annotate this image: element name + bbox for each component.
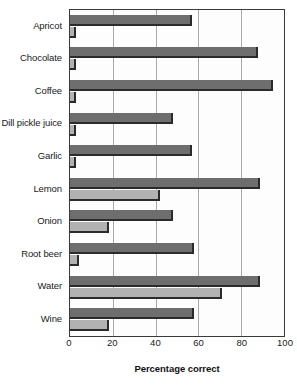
x-axis-title: Percentage correct (69, 363, 285, 374)
category-label: Chocolate (0, 42, 66, 75)
bar (70, 145, 192, 156)
bar-group (70, 140, 284, 173)
bar-group (70, 238, 284, 271)
bar (70, 320, 109, 331)
bar (70, 276, 260, 287)
bar-group (70, 108, 284, 141)
category-label: Wine (0, 302, 66, 335)
bar-group (70, 10, 284, 43)
value-axis: 020406080100 (69, 338, 285, 352)
tick-label: 20 (107, 338, 118, 348)
plot-area (69, 9, 285, 337)
bar (70, 27, 76, 38)
bar-group (70, 303, 284, 336)
bar (70, 288, 222, 299)
bar (70, 157, 76, 168)
category-label: Water (0, 270, 66, 303)
bar (70, 47, 258, 58)
bar (70, 59, 76, 70)
category-label: Onion (0, 205, 66, 238)
category-label: Lemon (0, 172, 66, 205)
bar (70, 80, 273, 91)
bar (70, 92, 76, 103)
bar (70, 243, 194, 254)
tick-label: 0 (66, 338, 71, 348)
bar (70, 113, 173, 124)
category-label: Root beer (0, 237, 66, 270)
bar-group (70, 271, 284, 304)
category-label: Garlic (0, 139, 66, 172)
bar (70, 125, 76, 136)
bar (70, 210, 173, 221)
tick-label: 80 (237, 338, 248, 348)
bar-group (70, 206, 284, 239)
category-axis: ApricotChocolateCoffeeDill pickle juiceG… (0, 9, 66, 335)
bars-layer (70, 10, 284, 336)
bar-group (70, 43, 284, 76)
category-label: Coffee (0, 74, 66, 107)
category-label: Dill pickle juice (0, 107, 66, 140)
category-label: Apricot (0, 9, 66, 42)
bar (70, 15, 192, 26)
bar (70, 178, 260, 189)
bar (70, 255, 79, 266)
bar (70, 190, 160, 201)
bar-group (70, 75, 284, 108)
tick-label: 60 (193, 338, 204, 348)
bar-group (70, 173, 284, 206)
bar (70, 222, 109, 233)
tick-label: 40 (150, 338, 161, 348)
tick-label: 100 (277, 338, 293, 348)
bar (70, 308, 194, 319)
bar-chart-figure: ApricotChocolateCoffeeDill pickle juiceG… (0, 0, 297, 387)
